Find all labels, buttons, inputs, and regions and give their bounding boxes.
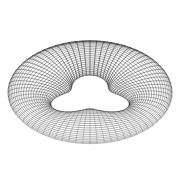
figure-container: Wireframe torus with trefoil inner hole … [0,0,181,190]
wireframe-torus-figure: Wireframe torus with trefoil inner hole … [0,0,181,190]
